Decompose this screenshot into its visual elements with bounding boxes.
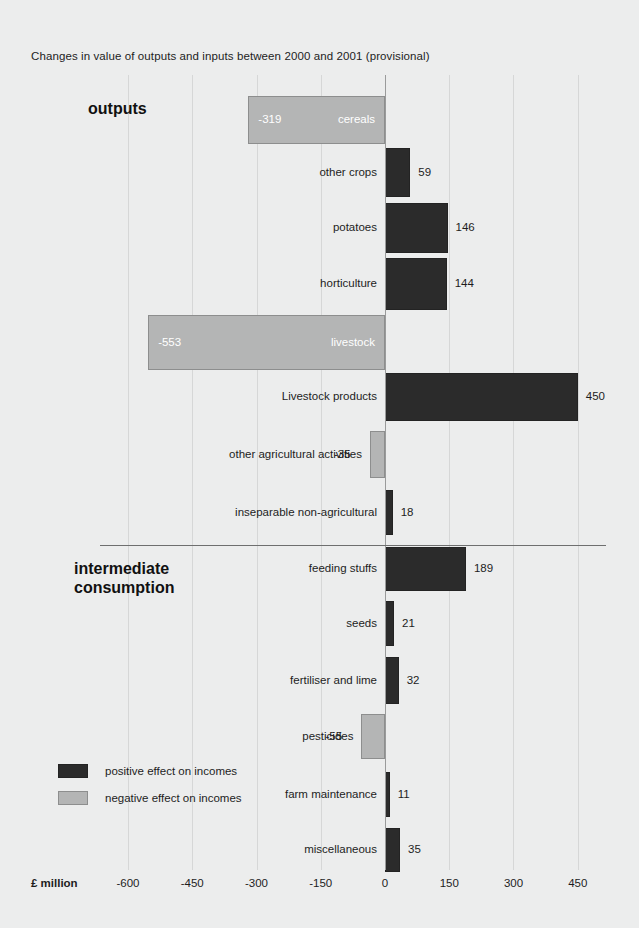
bar-fertiliser-and-lime: [385, 657, 399, 704]
value-label-12: 11: [398, 788, 410, 800]
x-tick-label-1: -450: [181, 877, 204, 889]
category-label-7: inseparable non-agricultural: [0, 506, 377, 518]
gridline--600: [128, 75, 129, 870]
x-tick-label-2: -300: [245, 877, 268, 889]
gridline-300: [513, 75, 514, 870]
value-label-7: 18: [401, 506, 414, 518]
bar-seeds: [385, 601, 394, 646]
x-tick-label-4: 0: [382, 877, 388, 889]
chart-legend: positive effect on incomes negative effe…: [58, 757, 242, 811]
category-label-0: cereals: [0, 113, 375, 125]
section-label-intermediate-line2: consumption: [74, 579, 174, 596]
x-tick-label-3: -150: [309, 877, 332, 889]
gridline-150: [449, 75, 450, 870]
value-label-8: 189: [474, 562, 493, 574]
category-label-10: fertiliser and lime: [0, 674, 377, 686]
section-divider: [100, 545, 606, 546]
category-label-13: miscellaneous: [0, 843, 377, 855]
axis-unit-label: £ million: [31, 877, 78, 889]
value-label-3: 144: [455, 277, 474, 289]
category-label-8: feeding stuffs: [0, 562, 377, 574]
value-label-0: -319: [258, 113, 281, 125]
category-label-6: other agricultural activities: [0, 448, 362, 460]
value-label-13: 35: [408, 843, 421, 855]
value-label-1: 59: [418, 166, 431, 178]
x-tick-label-6: 300: [504, 877, 523, 889]
value-label-10: 32: [407, 674, 420, 686]
legend-item-positive: positive effect on incomes: [58, 757, 242, 784]
x-tick-label-0: -600: [117, 877, 140, 889]
value-label-4: -553: [158, 336, 181, 348]
bar-potatoes: [385, 203, 448, 253]
bar-other-crops: [385, 148, 410, 197]
bar-pesticides: [361, 714, 385, 759]
x-tick-label-7: 450: [568, 877, 587, 889]
x-tick-label-5: 150: [440, 877, 459, 889]
gridline-450: [578, 75, 579, 870]
chart-page: Changes in value of outputs and inputs b…: [0, 0, 639, 928]
category-label-1: other crops: [0, 166, 377, 178]
gridline--300: [257, 75, 258, 870]
bar-livestock-products: [385, 373, 578, 421]
category-label-11: pesticides: [0, 730, 353, 742]
bar-feeding-stuffs: [385, 547, 466, 591]
legend-label-negative: negative effect on incomes: [105, 792, 242, 804]
legend-item-negative: negative effect on incomes: [58, 784, 242, 811]
legend-swatch-positive-icon: [58, 764, 88, 778]
value-label-6: -35: [334, 448, 351, 460]
category-label-9: seeds: [0, 617, 377, 629]
gridline--450: [192, 75, 193, 870]
category-label-2: potatoes: [0, 221, 377, 233]
category-label-5: Livestock products: [0, 390, 377, 402]
value-label-2: 146: [456, 221, 475, 233]
category-label-4: livestock: [0, 336, 375, 348]
gridline--150: [321, 75, 322, 870]
bar-horticulture: [385, 258, 447, 310]
bar-inseparable-non-agricultural: [385, 490, 393, 535]
legend-swatch-negative-icon: [58, 791, 88, 805]
category-label-3: horticulture: [0, 277, 377, 289]
value-label-5: 450: [586, 390, 605, 402]
value-label-11: -55: [325, 730, 342, 742]
legend-label-positive: positive effect on incomes: [105, 765, 237, 777]
zero-axis-line: [385, 75, 386, 870]
x-axis: £ million -600-450-300-1500150300450: [0, 877, 639, 897]
bar-other-agricultural-activities: [370, 431, 385, 478]
value-label-9: 21: [402, 617, 415, 629]
bar-miscellaneous: [385, 828, 400, 872]
